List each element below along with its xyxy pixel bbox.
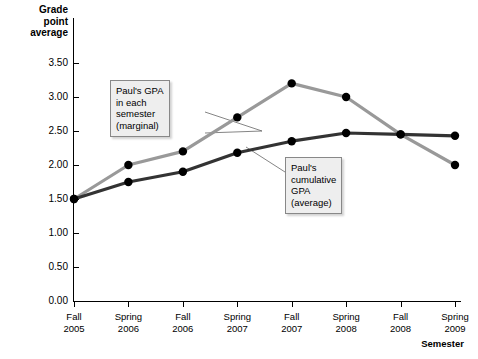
leader-marginal-b [205,131,262,133]
x-axis-line [73,301,461,302]
x-tick-label-line: Spring [319,311,373,323]
data-point [233,149,241,157]
annotation-line: in each [116,97,164,109]
data-point [451,132,459,140]
data-point [396,130,404,138]
y-tick-label: 1.00 [28,228,68,238]
x-tick [74,302,75,307]
y-tick-label: 0.50 [28,262,68,272]
x-tick-label-line: Fall [265,311,319,323]
x-tick-label: Fall2008 [374,311,428,334]
x-tick [455,302,456,307]
y-axis-title: Grade point average [14,4,68,39]
y-tick [74,63,79,64]
x-tick-label: Fall2005 [47,311,101,334]
data-point [342,129,350,137]
leader-marginal-a [205,112,262,131]
x-tick-label: Spring2007 [210,311,264,334]
annotation-line: GPA [291,185,336,197]
y-tick [74,233,79,234]
x-tick-label-line: Fall [374,311,428,323]
x-tick-label-line: 2006 [156,323,210,335]
x-tick [401,302,402,307]
annotation-line: Paul's [291,162,336,174]
data-point [179,168,187,176]
y-tick-label: 1.50 [28,194,68,204]
x-tick-label-line: Fall [156,311,210,323]
data-point [396,130,404,138]
x-tick-label-line: Spring [428,311,478,323]
x-tick [183,302,184,307]
data-point [124,178,132,186]
y-tick [74,267,79,268]
x-tick-label-line: Fall [47,311,101,323]
y-tick-label: 2.50 [28,126,68,136]
x-tick-label: Spring2009 [428,311,478,334]
data-point [179,147,187,155]
x-tick-label-line: 2007 [265,323,319,335]
x-tick-label: Fall2007 [265,311,319,334]
data-point [342,93,350,101]
x-tick-label: Fall2006 [156,311,210,334]
x-tick [292,302,293,307]
x-tick-label-line: Spring [210,311,264,323]
x-tick [128,302,129,307]
leader-cumulative [246,147,285,172]
y-axis-title-line: Grade [14,4,68,16]
annotation-line: semester [116,108,164,120]
data-point [288,137,296,145]
x-tick-label-line: 2008 [374,323,428,335]
x-tick-label: Spring2008 [319,311,373,334]
x-tick-label-line: Spring [101,311,155,323]
y-tick [74,199,79,200]
x-tick-label-line: 2005 [47,323,101,335]
annotation-line: Paul's GPA [116,85,164,97]
y-tick-label: 2.00 [28,160,68,170]
data-point [451,161,459,169]
y-tick-label: 0.00 [28,296,68,306]
y-tick [74,165,79,166]
annotation-marginal: Paul's GPA in each semester (marginal) [110,80,170,137]
y-axis-title-line: point [14,16,68,28]
data-point [288,79,296,87]
y-tick-label: 3.50 [28,58,68,68]
x-tick-label-line: 2008 [319,323,373,335]
y-tick-label: 3.00 [28,92,68,102]
y-tick [74,97,79,98]
x-tick [237,302,238,307]
x-tick-label-line: 2006 [101,323,155,335]
annotation-line: cumulative [291,174,336,186]
data-point [233,113,241,121]
plot-area [0,0,478,359]
gpa-line-chart: Grade point average 0.000.501.001.502.00… [0,0,478,359]
x-tick-label: Spring2006 [101,311,155,334]
x-tick-label-line: 2007 [210,323,264,335]
annotation-line: (average) [291,197,336,209]
annotation-line: (marginal) [116,120,164,132]
x-tick-label-line: 2009 [428,323,478,335]
y-axis-title-line: average [14,27,68,39]
x-axis-title: Semester [421,338,464,349]
x-tick [346,302,347,307]
y-axis-line [73,18,74,302]
y-tick [74,131,79,132]
data-point [124,161,132,169]
annotation-cumulative: Paul's cumulative GPA (average) [285,157,342,214]
series-line-cumulative [74,133,455,199]
